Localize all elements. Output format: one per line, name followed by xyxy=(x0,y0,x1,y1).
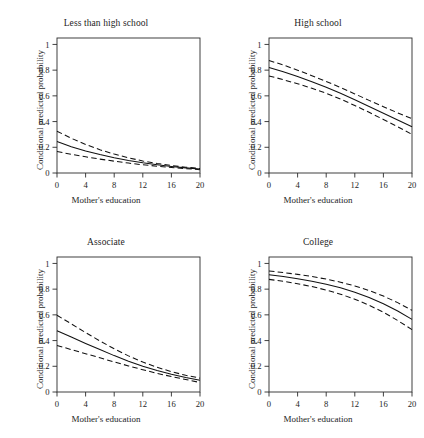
x-tick-label: 4 xyxy=(295,399,300,409)
plot-frame xyxy=(57,257,200,392)
y-tick-label: 0.2 xyxy=(39,361,50,371)
x-tick-label: 0 xyxy=(55,399,59,409)
y-tick-label: 0.8 xyxy=(39,65,50,75)
y-tick-label: 0.2 xyxy=(39,142,50,152)
x-tick-label: 20 xyxy=(196,180,205,190)
series-fit xyxy=(269,275,412,320)
x-tick-label: 20 xyxy=(196,399,205,409)
y-tick-label: 0.6 xyxy=(251,91,262,101)
x-tick-label: 16 xyxy=(379,399,388,409)
x-tick-label: 20 xyxy=(408,399,417,409)
x-tick-label: 12 xyxy=(351,180,360,190)
plot-area-2: 04812162000.20.40.60.81 xyxy=(0,219,212,438)
y-tick-label: 0.4 xyxy=(251,336,262,346)
x-tick-label: 16 xyxy=(167,399,176,409)
x-tick-label: 16 xyxy=(379,180,388,190)
y-tick-label: 0.4 xyxy=(39,117,50,127)
plot-area-0: 04812162000.20.40.60.81 xyxy=(0,0,212,219)
y-tick-label: 0.4 xyxy=(39,336,50,346)
x-tick-label: 4 xyxy=(83,399,88,409)
x-tick-label: 20 xyxy=(408,180,417,190)
x-axis-label: Mother's education xyxy=(0,414,212,424)
y-tick-label: 0.6 xyxy=(39,310,50,320)
panel-less-than-high-school: Less than high school Conditional predic… xyxy=(0,0,212,219)
y-tick-label: 0.6 xyxy=(251,310,262,320)
x-axis-label: Mother's education xyxy=(0,195,212,205)
y-tick-label: 1 xyxy=(257,40,261,50)
y-tick-label: 0.6 xyxy=(39,91,50,101)
y-tick-label: 0.2 xyxy=(251,361,262,371)
panel-high-school: High school Conditional predicted probab… xyxy=(212,0,424,219)
y-tick-label: 0 xyxy=(257,168,261,178)
y-tick-label: 0 xyxy=(45,387,49,397)
x-axis-label: Mother's education xyxy=(212,195,424,205)
plot-area-3: 04812162000.20.40.60.81 xyxy=(212,219,424,438)
series-upper xyxy=(57,315,200,378)
series-lower xyxy=(57,345,200,382)
y-tick-label: 0.8 xyxy=(251,284,262,294)
series-upper xyxy=(269,271,412,310)
series-upper xyxy=(269,61,412,119)
plot-frame xyxy=(269,38,412,173)
y-tick-label: 1 xyxy=(257,259,261,269)
figure-grid: Less than high school Conditional predic… xyxy=(0,0,424,438)
y-tick-label: 0.8 xyxy=(39,284,50,294)
y-tick-label: 0.2 xyxy=(251,142,262,152)
x-tick-label: 8 xyxy=(112,399,116,409)
x-tick-label: 0 xyxy=(267,180,271,190)
y-tick-label: 0 xyxy=(45,168,49,178)
x-tick-label: 0 xyxy=(267,399,271,409)
x-tick-label: 8 xyxy=(324,399,328,409)
x-tick-label: 4 xyxy=(83,180,88,190)
x-tick-label: 4 xyxy=(295,180,300,190)
series-lower xyxy=(269,76,412,134)
y-tick-label: 1 xyxy=(45,40,49,50)
x-tick-label: 8 xyxy=(112,180,116,190)
plot-area-1: 04812162000.20.40.60.81 xyxy=(212,0,424,219)
x-tick-label: 12 xyxy=(139,180,148,190)
x-tick-label: 12 xyxy=(351,399,360,409)
x-tick-label: 16 xyxy=(167,180,176,190)
series-fit xyxy=(269,68,412,127)
x-tick-label: 8 xyxy=(324,180,328,190)
y-tick-label: 0 xyxy=(257,387,261,397)
y-tick-label: 0.8 xyxy=(251,65,262,75)
series-lower xyxy=(269,279,412,329)
x-axis-label: Mother's education xyxy=(212,414,424,424)
x-tick-label: 0 xyxy=(55,180,59,190)
x-tick-label: 12 xyxy=(139,399,148,409)
panel-associate: Associate Conditional predicted probabil… xyxy=(0,219,212,438)
y-tick-label: 1 xyxy=(45,259,49,269)
panel-college: College Conditional predicted probabilit… xyxy=(212,219,424,438)
y-tick-label: 0.4 xyxy=(251,117,262,127)
plot-frame xyxy=(57,38,200,173)
